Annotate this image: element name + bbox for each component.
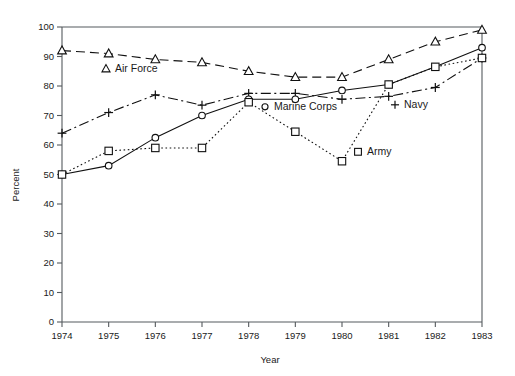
marker-square	[385, 81, 392, 88]
y-tick-label: 60	[43, 139, 54, 150]
inline-legend: Air ForceMarine CorpsNavyArmy	[102, 62, 429, 157]
legend-label: Air Force	[115, 62, 158, 74]
marker-circle	[105, 162, 112, 169]
marker-square	[292, 128, 299, 135]
x-tick-label: 1976	[145, 330, 166, 341]
marker-square	[198, 144, 205, 151]
y-tick-label: 0	[49, 316, 54, 327]
marker-square	[478, 54, 485, 61]
x-tick-label: 1983	[471, 330, 492, 341]
marker-circle	[152, 134, 159, 141]
marker-plus	[198, 101, 207, 110]
y-tick-label: 50	[43, 169, 54, 180]
y-tick-label: 40	[43, 198, 54, 209]
marker-circle	[199, 112, 206, 119]
y-axis-title: Percent	[10, 168, 21, 201]
marker-triangle	[384, 55, 393, 63]
marker-square	[105, 147, 112, 154]
legend-entry-navy: Navy	[391, 98, 429, 110]
legend-entry-marine-corps: Marine Corps	[262, 100, 337, 112]
marker-plus	[431, 83, 440, 92]
y-tick-label: 100	[38, 21, 54, 32]
x-tick-label: 1974	[51, 330, 72, 341]
marker-triangle	[198, 58, 207, 66]
line-chart: 0102030405060708090100197419751976197719…	[0, 0, 515, 376]
marker-plus	[391, 101, 399, 109]
marker-plus	[104, 108, 113, 117]
legend-entry-army: Army	[355, 145, 393, 157]
legend-label: Marine Corps	[274, 100, 337, 112]
x-tick-label: 1980	[331, 330, 352, 341]
marker-circle	[262, 104, 268, 110]
x-tick-label: 1982	[425, 330, 446, 341]
marker-square	[338, 158, 345, 165]
marker-plus	[384, 92, 393, 101]
x-tick-label: 1979	[285, 330, 306, 341]
marker-plus	[151, 90, 160, 99]
marker-square	[355, 148, 362, 155]
x-axis-title: Year	[260, 354, 279, 365]
marker-circle	[479, 44, 486, 51]
marker-plus	[58, 129, 67, 138]
chart-container: 0102030405060708090100197419751976197719…	[0, 0, 515, 376]
marker-square	[245, 99, 252, 106]
legend-entry-air-force: Air Force	[102, 62, 158, 74]
y-tick-label: 30	[43, 228, 54, 239]
marker-square	[58, 171, 65, 178]
marker-square	[432, 63, 439, 70]
marker-plus	[338, 95, 347, 104]
x-tick-label: 1978	[238, 330, 259, 341]
y-tick-label: 90	[43, 51, 54, 62]
y-tick-label: 70	[43, 110, 54, 121]
marker-triangle	[58, 46, 67, 54]
y-tick-label: 10	[43, 287, 54, 298]
y-tick-label: 20	[43, 257, 54, 268]
legend-label: Navy	[404, 98, 429, 110]
marker-circle	[339, 87, 346, 94]
x-tick-label: 1977	[191, 330, 212, 341]
marker-triangle	[102, 65, 110, 72]
x-tick-label: 1981	[378, 330, 399, 341]
legend-label: Army	[367, 145, 392, 157]
series-path	[62, 58, 482, 175]
x-tick-label: 1975	[98, 330, 119, 341]
y-tick-label: 80	[43, 80, 54, 91]
marker-square	[152, 144, 159, 151]
